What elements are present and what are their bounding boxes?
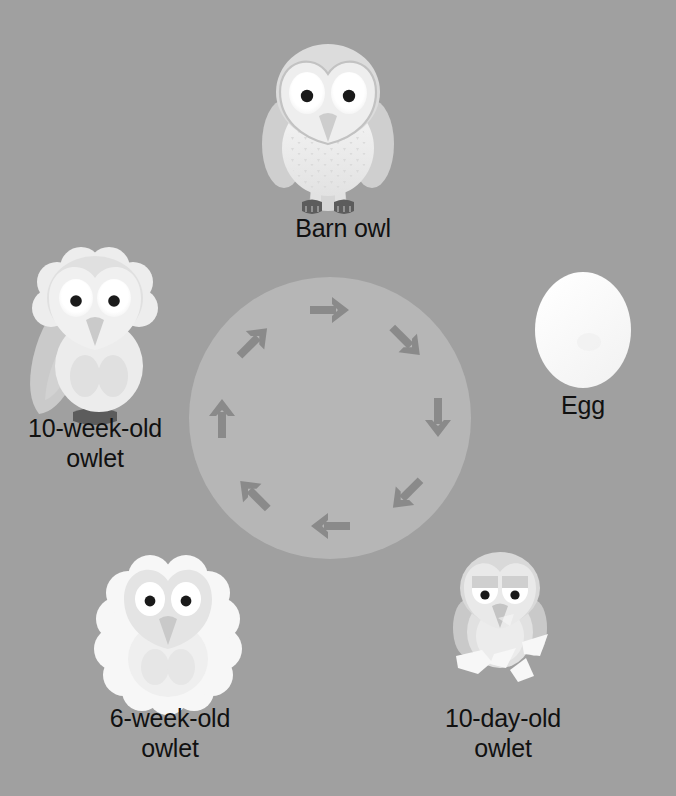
caption-barn-owl: Barn owl xyxy=(243,213,443,243)
owlet6-pupil-right xyxy=(181,596,192,607)
owlet10-pupil-left xyxy=(70,295,82,307)
owlet6-pupil-left xyxy=(145,596,156,607)
owlet10-pupil-right xyxy=(108,295,120,307)
caption-six-week-old-owlet: 6-week-old owlet xyxy=(55,703,285,763)
stage-egg[interactable] xyxy=(535,272,631,388)
downy-owlet-icon xyxy=(94,555,242,715)
caption-egg: Egg xyxy=(503,390,663,420)
owlet-pupil-right xyxy=(510,590,519,599)
owl-pupil-left xyxy=(301,90,313,102)
egg-icon xyxy=(535,272,631,388)
owl-pupil-right xyxy=(343,90,355,102)
caption-ten-day-old-owlet: 10-day-old owlet xyxy=(388,703,618,763)
stage-six-week-old-owlet[interactable] xyxy=(94,555,242,715)
life-cycle-ring xyxy=(189,277,471,559)
caption-ten-week-old-owlet: 10-week-old owlet xyxy=(0,413,190,473)
owlet-eyelid-right xyxy=(502,576,528,588)
owlet-eyelid-left xyxy=(472,576,498,588)
cycle-circle xyxy=(189,277,471,559)
owlet-pupil-left xyxy=(480,590,489,599)
